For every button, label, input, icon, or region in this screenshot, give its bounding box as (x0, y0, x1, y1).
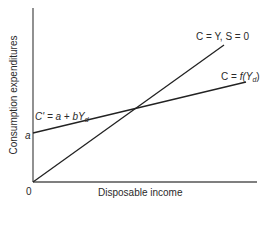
origin-label: 0 (26, 187, 32, 197)
consumption-function-line (33, 82, 246, 133)
cf-open: (Y (242, 71, 252, 82)
cf-prefix: C = (221, 71, 240, 82)
line-45-label: C = Y, S = 0 (196, 32, 249, 42)
x-axis-label: Disposable income (98, 188, 183, 198)
cf-close: ) (256, 71, 259, 82)
eq-prefix: C' = a + bY (35, 111, 85, 122)
y-axis-label: Consumption expenditures (8, 36, 19, 155)
eq-sub: d (85, 116, 89, 123)
consumption-function-label: C = f(Yd) (221, 72, 260, 83)
consumption-equation-label: C' = a + bYd (35, 112, 89, 123)
intercept-label: a (25, 131, 31, 141)
